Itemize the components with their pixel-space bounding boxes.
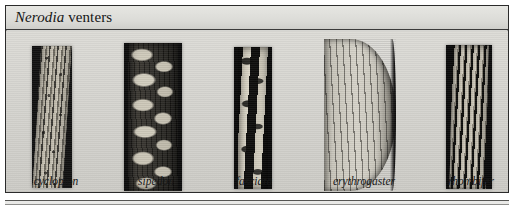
venter-blotch-pattern <box>238 47 268 189</box>
specimen-inner <box>446 45 492 189</box>
figure-title-bar: Nerodia venters <box>6 6 508 30</box>
specimen-photo-panel: cyclopion sipedon fasciata erythrogaster… <box>6 31 508 192</box>
title-genus: Nerodia <box>15 9 64 25</box>
specimen-caption-cyclopion: cyclopion <box>34 175 79 187</box>
specimen-image-sipedon <box>124 43 182 191</box>
specimen-caption-sipedon: sipedon <box>138 175 174 187</box>
specimen-inner <box>324 39 396 191</box>
horizontal-rule <box>5 200 509 205</box>
specimen-image-erythrogaster <box>324 39 396 191</box>
specimen-image-rhombifer <box>446 45 492 189</box>
specimen-inner <box>32 46 72 188</box>
venter-speckle-pattern <box>32 46 71 188</box>
specimen-caption-fasciata: fasciata <box>236 175 272 187</box>
specimen-caption-erythrogaster: erythrogaster <box>333 175 395 187</box>
title-suffix: venters <box>64 9 112 25</box>
figure-plate: Nerodia venters <box>5 5 509 193</box>
specimen-inner <box>124 43 182 191</box>
specimen-image-cyclopion <box>32 46 72 188</box>
specimen-image-fasciata <box>234 47 272 189</box>
venter-dark-edge <box>390 39 396 191</box>
page-title: Nerodia venters <box>15 9 112 26</box>
venter-body <box>324 39 396 191</box>
specimen-inner <box>234 47 272 189</box>
specimen-caption-rhombifer: rhombifer <box>448 175 494 187</box>
venter-body <box>449 45 488 189</box>
venter-body <box>128 43 178 191</box>
